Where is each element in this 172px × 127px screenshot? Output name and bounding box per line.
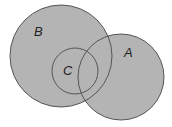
venn-diagram: B A C: [0, 0, 172, 127]
set-b-label: B: [34, 24, 43, 39]
set-a-label: A: [123, 45, 133, 60]
set-c-label: C: [63, 63, 73, 78]
